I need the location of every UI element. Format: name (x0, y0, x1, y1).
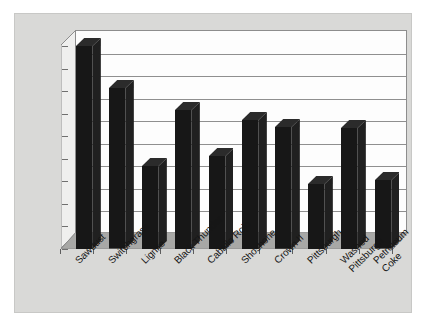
x-axis-labels: SawdustSwitchgrassLigniteBlack ThunderCa… (14, 13, 412, 313)
x-axis-label: Pittsburgh (305, 227, 344, 266)
chart-panel: 95%90%85%80%75%70%65%60%55%50% SawdustSw… (14, 13, 412, 313)
x-axis-label: Petroleum Coke (371, 226, 419, 274)
chart-screenshot: 95%90%85%80%75%70%65%60%55%50% SawdustSw… (0, 0, 426, 329)
x-axis-label: Lignite (139, 238, 167, 266)
x-axis-label: Crown II (272, 232, 306, 266)
x-axis-label: Sawdust (73, 231, 108, 266)
